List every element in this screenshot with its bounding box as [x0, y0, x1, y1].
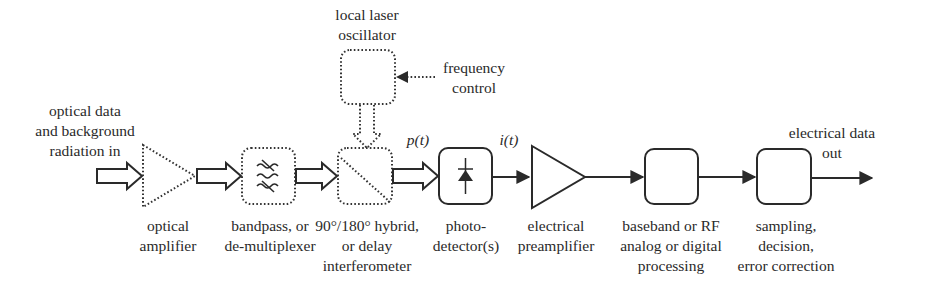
lo-to-hybrid-arrow — [353, 105, 381, 148]
sampling-decision-box — [757, 149, 811, 204]
svg-text:photo-: photo- — [446, 217, 486, 234]
svg-text:analog or digital: analog or digital — [620, 237, 722, 254]
local-oscillator-label: local laser oscillator — [335, 6, 399, 43]
receiver-block-diagram: optical data and background radiation in… — [0, 0, 937, 297]
baseband-processing-box — [645, 149, 698, 204]
svg-text:local laser: local laser — [335, 6, 399, 23]
photodiode-icon — [458, 158, 473, 194]
optical-arrow-filter-to-hybrid — [296, 163, 337, 189]
svg-text:optical: optical — [147, 217, 189, 234]
optical-power-signal-label: p(t) — [406, 131, 429, 149]
electrical-preamplifier-label: electrical preamplifier — [518, 217, 595, 254]
frequency-control-arrowhead — [396, 71, 408, 83]
output-label: electrical data out — [789, 124, 876, 161]
svg-text:90°/180° hybrid,: 90°/180° hybrid, — [315, 217, 419, 234]
svg-text:processing: processing — [638, 257, 705, 274]
input-label: optical data and background radiation in — [35, 102, 135, 159]
svg-text:bandpass, or: bandpass, or — [231, 217, 309, 234]
bandpass-filter-label: bandpass, or de-multiplexer — [224, 217, 316, 254]
svg-text:electrical data: electrical data — [789, 124, 876, 141]
svg-text:optical data: optical data — [49, 102, 121, 119]
svg-text:interferometer: interferometer — [323, 257, 412, 274]
svg-text:control: control — [452, 79, 496, 96]
svg-text:detector(s): detector(s) — [433, 237, 499, 255]
svg-text:sampling,: sampling, — [756, 217, 817, 234]
filter-icon — [257, 160, 278, 192]
beam-splitter-icon — [341, 158, 390, 202]
optical-input-arrow — [97, 163, 142, 189]
svg-text:electrical: electrical — [528, 217, 585, 234]
svg-text:de-multiplexer: de-multiplexer — [224, 237, 316, 254]
svg-text:and background: and background — [35, 122, 135, 139]
optical-arrow-amp-to-filter — [197, 163, 241, 189]
local-laser-box — [341, 50, 395, 104]
svg-text:frequency: frequency — [443, 59, 505, 76]
svg-text:preamplifier: preamplifier — [518, 237, 595, 254]
svg-text:out: out — [822, 144, 843, 161]
svg-text:radiation in: radiation in — [49, 142, 120, 159]
svg-text:error correction: error correction — [738, 257, 835, 274]
svg-text:decision,: decision, — [758, 237, 814, 254]
svg-text:baseband or RF: baseband or RF — [622, 217, 720, 234]
optical-amplifier-label: optical amplifier — [140, 217, 198, 254]
optical-amplifier-triangle — [143, 145, 195, 207]
frequency-control-label: frequency control — [443, 59, 505, 96]
svg-text:oscillator: oscillator — [338, 26, 397, 43]
sampling-decision-label: sampling, decision, error correction — [738, 217, 835, 274]
optical-arrow-hybrid-to-detector — [393, 163, 438, 189]
electrical-preamplifier-triangle — [532, 146, 585, 208]
svg-text:amplifier: amplifier — [140, 237, 198, 254]
photodetector-label: photo- detector(s) — [433, 217, 499, 255]
baseband-processing-label: baseband or RF analog or digital process… — [620, 217, 722, 274]
bandpass-filter-box — [242, 148, 295, 204]
photocurrent-signal-label: i(t) — [500, 131, 519, 149]
hybrid-label: 90°/180° hybrid, or delay interferometer — [315, 217, 419, 274]
svg-text:or delay: or delay — [342, 237, 393, 254]
